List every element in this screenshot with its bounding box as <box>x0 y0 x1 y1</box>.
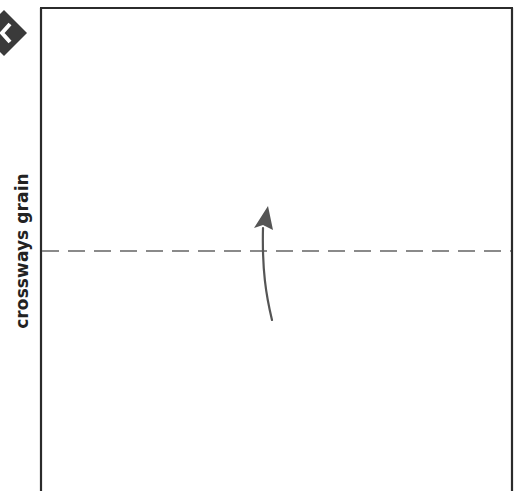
curved-up-arrow-icon <box>254 206 273 320</box>
paper-frame <box>40 8 513 491</box>
diagram-canvas: crossways grain <box>0 0 515 491</box>
grain-direction-label: crossways grain <box>12 173 32 329</box>
chevron-left-diamond-icon[interactable] <box>0 10 27 56</box>
